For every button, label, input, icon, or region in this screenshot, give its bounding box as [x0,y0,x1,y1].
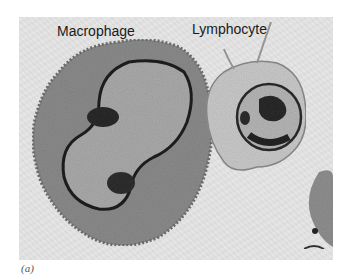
cell-fragment [304,170,333,249]
lymphocyte-cell [207,22,306,170]
micrograph-image [19,17,333,260]
panel-caption: (a) [21,262,34,274]
cells-illustration [19,17,333,260]
macrophage-label: Macrophage [57,23,135,39]
macrophage-cell [33,39,212,245]
lymphocyte-label: Lymphocyte [192,21,267,37]
